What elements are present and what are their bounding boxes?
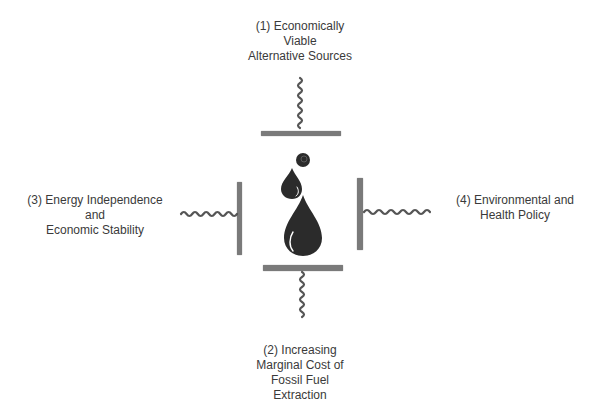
spring-icon-left (181, 212, 237, 216)
diagram-graphics (0, 0, 597, 419)
spring-icon-top (298, 78, 302, 128)
spring-icon-right (364, 210, 430, 214)
oil-drops-icon (281, 153, 322, 256)
spring-icon-bottom (300, 272, 304, 317)
